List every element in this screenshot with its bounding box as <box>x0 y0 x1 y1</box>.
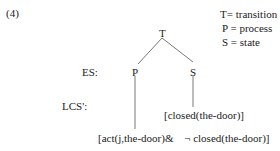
negation-symbol: ¬ <box>184 132 190 144</box>
edge-t-s <box>162 38 193 62</box>
tree-edges <box>0 0 280 151</box>
lcs-process-act: [act(j,the-door)& <box>98 132 173 144</box>
lcs-process-closed: closed(the-door)] <box>193 132 269 144</box>
row-label-lcs: LCS': <box>62 100 87 112</box>
lcs-process: [act(j,the-door)& ¬ closed(the-door)] <box>98 132 270 144</box>
lcs-state: [closed(the-door)] <box>164 109 244 121</box>
edge-t-p <box>138 38 162 64</box>
row-label-es: ES: <box>82 66 98 78</box>
tree-node-state: S <box>190 66 196 78</box>
tree-node-process: P <box>132 66 138 78</box>
tree-node-root: T <box>159 27 166 39</box>
